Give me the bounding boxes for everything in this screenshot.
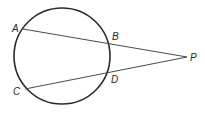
point-label-d: D <box>111 74 118 85</box>
point-label-p: P <box>190 52 197 63</box>
secant-diagram: A B C D P <box>0 0 205 114</box>
point-label-c: C <box>13 86 21 97</box>
secant-line-cp <box>25 57 187 89</box>
point-label-a: A <box>11 23 19 34</box>
point-label-b: B <box>112 31 119 42</box>
circle <box>14 8 110 104</box>
